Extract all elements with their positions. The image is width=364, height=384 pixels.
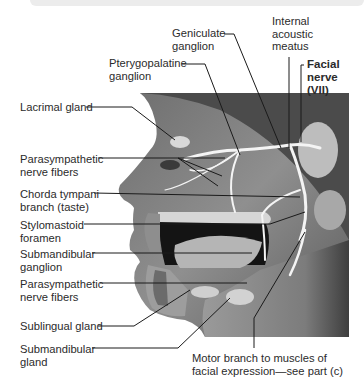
label-submandibular-ganglion: Submandibular ganglion — [20, 248, 95, 273]
label-pterygopalatine-ganglion: Pterygopalatine ganglion — [109, 57, 187, 82]
lacrimal-gland — [170, 136, 190, 148]
label-internal-acoustic-meatus: Internal acoustic meatus — [272, 15, 313, 53]
label-facial-nerve-vii: Facial nerve (VII) — [307, 58, 340, 97]
label-stylomastoid-foramen: Stylomastoid foramen — [20, 219, 84, 244]
ear — [298, 122, 338, 178]
label-lacrimal-gland: Lacrimal gland — [20, 101, 93, 114]
label-submandibular-gland: Submandibular gland — [20, 343, 95, 368]
eye — [160, 160, 180, 170]
label-geniculate-ganglion: Geniculate ganglion — [172, 27, 226, 52]
label-parasympathetic-fibers-upper: Parasympathetic nerve fibers — [20, 153, 103, 178]
label-sublingual-gland: Sublingual gland — [20, 320, 103, 333]
label-chorda-tympani: Chorda tympani branch (taste) — [20, 188, 99, 213]
label-parasympathetic-fibers-lower: Parasympathetic nerve fibers — [20, 278, 103, 303]
submandibular-gland — [226, 289, 254, 305]
palate — [158, 212, 271, 224]
label-motor-branch: Motor branch to muscles of facial expres… — [192, 352, 343, 377]
sublingual-gland — [191, 286, 219, 298]
